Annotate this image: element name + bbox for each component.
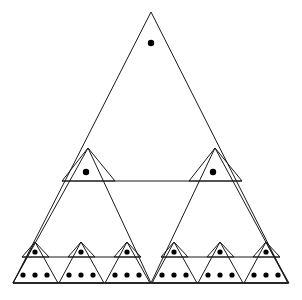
level4-dot-6-1	[251, 272, 256, 277]
level4-dot-2-1	[66, 272, 71, 277]
level4-dot-3-1	[112, 272, 117, 277]
level4-dot-6-2	[263, 272, 268, 277]
level4-dot-4-3	[183, 272, 188, 277]
level3-dot-5	[217, 249, 222, 254]
level2-dot-1	[83, 169, 89, 175]
level3-dot-4	[171, 249, 176, 254]
triangle-fractal-figure	[0, 0, 302, 300]
level3-dot-1	[32, 249, 37, 254]
level4-dot-5-2	[217, 272, 222, 277]
level3-dot-6	[263, 249, 268, 254]
level4-dot-1-3	[44, 272, 49, 277]
triangle-diagram-svg	[0, 0, 302, 300]
level4-dot-1-2	[32, 272, 37, 277]
level4-dot-5-3	[229, 272, 234, 277]
level4-dot-3-2	[124, 272, 129, 277]
level2-dot-2	[210, 169, 216, 175]
level3-dot-2	[78, 249, 83, 254]
level1-dot	[148, 40, 154, 46]
level4-dot-3-3	[136, 272, 141, 277]
level4-dot-2-2	[78, 272, 83, 277]
level4-dot-5-1	[205, 272, 210, 277]
level4-dot-4-1	[159, 272, 164, 277]
level4-dot-4-2	[171, 272, 176, 277]
level4-dot-2-3	[90, 272, 95, 277]
level4-dot-6-3	[275, 272, 280, 277]
level3-dot-3	[124, 249, 129, 254]
level4-dot-1-1	[20, 272, 25, 277]
